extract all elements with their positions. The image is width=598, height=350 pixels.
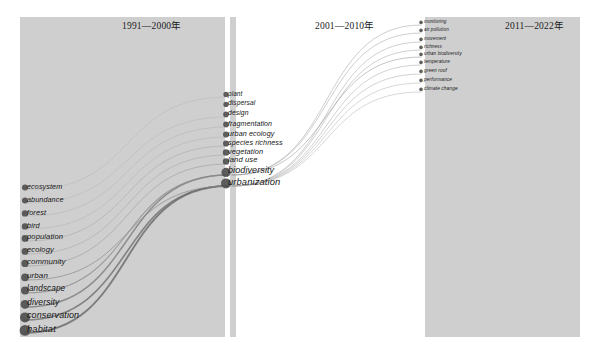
keyword-node[interactable] xyxy=(419,88,423,92)
keyword-label[interactable]: temperature xyxy=(424,60,450,65)
panel-title-p2: 2001—2010年 xyxy=(315,18,375,32)
keyword-label[interactable]: population xyxy=(27,233,63,241)
keyword-label[interactable]: green roof xyxy=(424,69,447,74)
keyword-node[interactable] xyxy=(419,61,423,65)
keyword-label[interactable]: conservation xyxy=(27,311,79,320)
keyword-label[interactable]: monitoring xyxy=(424,20,446,25)
keyword-label[interactable]: climate change xyxy=(424,87,458,92)
keyword-label[interactable]: urbanization xyxy=(228,177,280,186)
flow-link xyxy=(232,57,421,175)
keyword-label[interactable]: diversity xyxy=(27,298,59,307)
panel-title-p3: 2011—2022年 xyxy=(505,18,564,32)
alluvial-diagram-canvas: 1991—2000年2001—2010年2011—2022年ecosystema… xyxy=(0,0,598,350)
keyword-label[interactable]: community xyxy=(27,258,66,266)
keyword-label[interactable]: fragmentation xyxy=(228,120,272,127)
keyword-label[interactable]: bird xyxy=(27,222,40,229)
keyword-label[interactable]: landscape xyxy=(27,285,65,293)
keyword-label[interactable]: design xyxy=(228,110,249,117)
keyword-node[interactable] xyxy=(419,46,423,50)
panel-title-p1: 1991—2000年 xyxy=(122,18,182,32)
keyword-label[interactable]: movement xyxy=(424,37,446,42)
keyword-label[interactable]: dispersal xyxy=(228,100,255,107)
keyword-label[interactable]: vegetation xyxy=(228,148,263,155)
keyword-node[interactable] xyxy=(419,38,423,42)
keyword-label[interactable]: urban ecology xyxy=(228,130,274,137)
period-panel-p3 xyxy=(425,17,580,337)
keyword-label[interactable]: plant xyxy=(228,91,242,97)
keyword-label[interactable]: air pollution xyxy=(424,28,449,33)
keyword-node[interactable] xyxy=(419,53,423,57)
keyword-label[interactable]: ecology xyxy=(27,246,54,254)
keyword-label[interactable]: richness xyxy=(424,45,442,50)
keyword-label[interactable]: urban biodiversity xyxy=(424,52,462,57)
keyword-label[interactable]: habitat xyxy=(27,324,56,333)
keyword-node[interactable] xyxy=(419,70,423,74)
keyword-label[interactable]: urban xyxy=(27,272,48,280)
keyword-label[interactable]: land use xyxy=(228,156,258,164)
keyword-label[interactable]: abundance xyxy=(27,196,63,203)
keyword-label[interactable]: species richness xyxy=(228,139,283,146)
flow-layer xyxy=(0,0,598,350)
keyword-node[interactable] xyxy=(419,79,423,83)
keyword-label[interactable]: biodiversity xyxy=(228,166,274,175)
keyword-label[interactable]: forest xyxy=(27,209,46,216)
keyword-label[interactable]: performance xyxy=(424,78,452,83)
keyword-label[interactable]: ecosystem xyxy=(27,183,62,190)
keyword-node[interactable] xyxy=(419,29,423,33)
keyword-node[interactable] xyxy=(419,21,423,25)
